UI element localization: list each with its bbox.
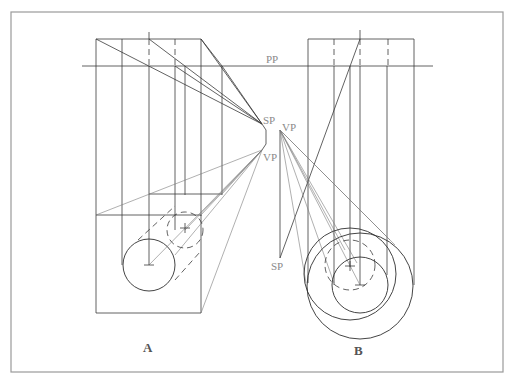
caption-b: B <box>354 343 363 358</box>
label-vp-b: VP <box>282 121 296 133</box>
label-vp-a: VP <box>263 151 277 163</box>
panel-b: B <box>280 30 414 358</box>
label-sp-a: SP <box>263 114 275 126</box>
panel-a: A <box>96 32 266 355</box>
diagram-canvas: PP <box>0 0 515 381</box>
label-pp: PP <box>266 53 278 65</box>
caption-a: A <box>143 340 153 355</box>
perspective-diagram: PP <box>0 0 515 381</box>
label-sp-b: SP <box>271 260 283 272</box>
